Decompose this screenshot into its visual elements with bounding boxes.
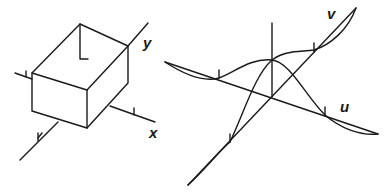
y-axis-lower — [20, 122, 58, 160]
diagram-canvas: y x v u — [0, 0, 392, 195]
x-axis-right — [110, 106, 155, 122]
cube-right-face — [87, 46, 128, 128]
z-axis-hidden — [80, 24, 88, 59]
v-axis-label: v — [327, 5, 337, 22]
x-axis-left — [15, 73, 32, 79]
y-axis-label: y — [142, 34, 152, 51]
x-axis-label: x — [148, 124, 158, 141]
u-axis-label: u — [340, 98, 349, 115]
surface-figure: v u — [165, 5, 378, 185]
cube-figure: y x — [15, 23, 158, 160]
